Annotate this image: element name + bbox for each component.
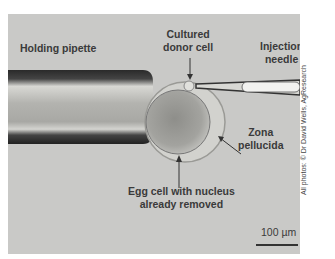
label-injection-needle: Injection needle	[260, 40, 300, 66]
label-injection-needle-line2: needle	[260, 53, 300, 66]
label-holding-pipette: Holding pipette	[20, 42, 96, 55]
scale-bar-label: 100 µm	[261, 226, 296, 239]
micrograph-photo: Holding pipette Cultured donor cell Inje…	[8, 14, 300, 254]
label-zona-pellucida-line2: pellucida	[238, 139, 284, 152]
label-zona-pellucida-line1: Zona	[238, 126, 284, 139]
label-egg-cell-line2: already removed	[128, 198, 235, 211]
holding-pipette-shape	[8, 70, 153, 144]
label-egg-cell-line1: Egg cell with nucleus	[128, 185, 235, 198]
label-cultured-donor-cell-line1: Cultured	[163, 28, 213, 41]
label-injection-needle-line1: Injection	[260, 40, 300, 53]
label-zona-pellucida: Zona pellucida	[238, 126, 284, 152]
label-egg-cell: Egg cell with nucleus already removed	[128, 185, 235, 211]
label-cultured-donor-cell: Cultured donor cell	[163, 28, 213, 54]
label-cultured-donor-cell-line2: donor cell	[163, 41, 213, 54]
photo-credit: All photos: © Dr David Wells, AgResearch	[300, 65, 307, 195]
